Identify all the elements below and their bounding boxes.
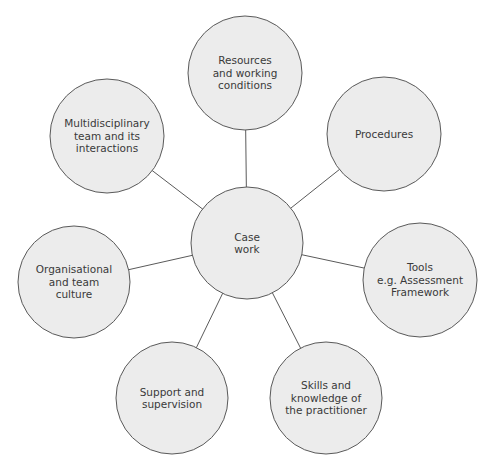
node-label-procedures: Procedures	[327, 77, 441, 191]
node-label-multidisciplinary: Multidisciplinary team and its interacti…	[50, 79, 164, 193]
node-label-tools: Tools e.g. Assessment Framework	[363, 223, 477, 337]
node-label-resources: Resources and working conditions	[188, 16, 302, 130]
node-label-organisational: Organisational and team culture	[18, 226, 130, 338]
node-label-support: Support and supervision	[116, 342, 228, 454]
node-label-case-work: Case work	[191, 187, 303, 299]
node-label-skills: Skills and knowledge of the practitioner	[270, 342, 382, 454]
